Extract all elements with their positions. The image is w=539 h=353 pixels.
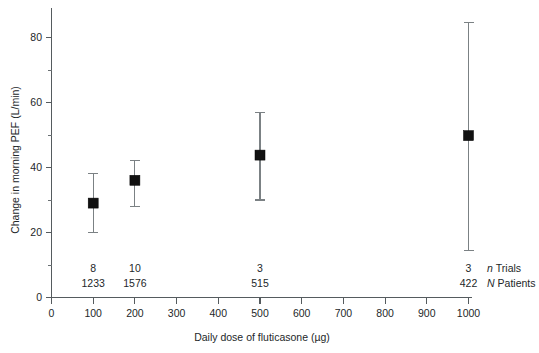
x-tick-label-500: 500 [251,307,269,319]
x-tick-label-900: 900 [418,307,436,319]
data-marker-dose-1000 [464,131,474,141]
x-tick-label-300: 300 [168,307,186,319]
x-tick-label-800: 800 [376,307,394,319]
y-tick-label-80: 80 [30,31,42,43]
n-trials-symbol: n [487,262,493,274]
x-tick-label-400: 400 [210,307,228,319]
y-tick-label-20: 20 [30,226,42,238]
x-axis-title: Daily dose of fluticasone (µg) [194,331,330,343]
n-patients-row-label: NPatients [487,277,536,289]
x-tick-label-0: 0 [49,307,55,319]
data-point-dose-200 [130,161,140,207]
x-tick-label-100: 100 [84,307,102,319]
x-tick-label-1000: 1000 [457,307,481,319]
x-tick-label-200: 200 [126,307,144,319]
n-patients-value-dose-200: 1576 [123,277,147,289]
data-point-dose-500 [255,112,265,200]
x-axis-tick-labels: 0 100 200 300 400 500 600 700 800 900 10… [49,307,481,319]
n-patients-symbol: N [487,277,495,289]
data-marker-dose-500 [255,150,265,160]
y-axis-ticks [46,38,52,298]
y-tick-label-40: 40 [30,161,42,173]
n-trials-value-dose-500: 3 [257,262,263,274]
n-trials-value-dose-1000: 3 [466,262,472,274]
data-point-dose-1000 [464,23,474,251]
data-series-group [88,23,473,251]
n-patients-value-dose-100: 1233 [82,277,106,289]
x-axis-ticks [52,298,469,305]
data-marker-dose-100 [88,198,98,208]
n-patients-word: Patients [498,277,536,289]
y-tick-label-0: 0 [36,291,42,303]
pef-dose-response-scatter-plot: 0 20 40 60 80 0 100 200 300 400 [0,0,539,353]
data-point-dose-100 [88,174,98,233]
n-trials-row-label: nTrials [487,262,521,274]
annotation-n-patients-row: 1233 1576 515 422 NPatients [82,277,536,289]
n-trials-value-dose-100: 8 [90,262,96,274]
x-tick-label-700: 700 [335,307,353,319]
chart-figure: 0 20 40 60 80 0 100 200 300 400 [0,0,539,353]
n-trials-word: Trials [496,262,521,274]
data-marker-dose-200 [130,175,140,185]
y-axis-title: Change in morning PEF (L/min) [9,86,21,234]
n-trials-value-dose-200: 10 [129,262,141,274]
n-patients-value-dose-500: 515 [251,277,269,289]
y-axis-tick-labels: 0 20 40 60 80 [30,31,42,303]
y-tick-label-60: 60 [30,96,42,108]
n-patients-value-dose-1000: 422 [460,277,478,289]
x-tick-label-600: 600 [293,307,311,319]
annotation-n-trials-row: 8 10 3 3 nTrials [90,262,521,274]
